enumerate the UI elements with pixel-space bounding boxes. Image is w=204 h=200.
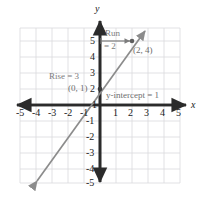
y-tick--2: -2: [86, 132, 94, 142]
x-axis-label: x: [191, 100, 195, 110]
run-label-line2: = 2: [104, 42, 116, 51]
y-tick-4: 4: [90, 52, 95, 62]
y-tick-1: 1: [92, 100, 97, 110]
x-tick--4: -4: [32, 108, 40, 118]
y-tick-5: 5: [90, 36, 95, 46]
y-tick--3: -3: [86, 148, 94, 158]
x-tick-2: 2: [128, 108, 133, 118]
x-tick-1: 1: [113, 108, 118, 118]
x-tick--2: -2: [64, 108, 72, 118]
point-0-1: [98, 87, 103, 92]
point-2-4: [130, 39, 135, 44]
y-axis-label: y: [95, 4, 99, 14]
x-tick-3: 3: [144, 108, 149, 118]
y-intercept-label: y-intercept = 1: [106, 91, 159, 100]
x-tick-4: 4: [160, 108, 165, 118]
point-label-0-1: (0, 1): [68, 84, 88, 93]
coordinate-plane: [0, 0, 204, 200]
y-tick-3: 3: [90, 68, 95, 78]
run-label-line1: Run: [105, 29, 120, 38]
y-tick--5: -5: [86, 178, 94, 188]
point-label-2-4: (2, 4): [133, 46, 153, 55]
x-tick-5: 5: [176, 108, 181, 118]
x-tick--3: -3: [48, 108, 56, 118]
rise-label: Rise = 3: [49, 72, 79, 81]
y-tick-2: 2: [90, 84, 95, 94]
graph-figure: y x -5 -4 -3 -2 -1 1 2 3 4 5 5 4 3 2 1 -…: [0, 0, 204, 200]
x-tick--5: -5: [16, 108, 24, 118]
y-tick--1: -1: [86, 116, 94, 126]
y-tick--4: -4: [86, 164, 94, 174]
